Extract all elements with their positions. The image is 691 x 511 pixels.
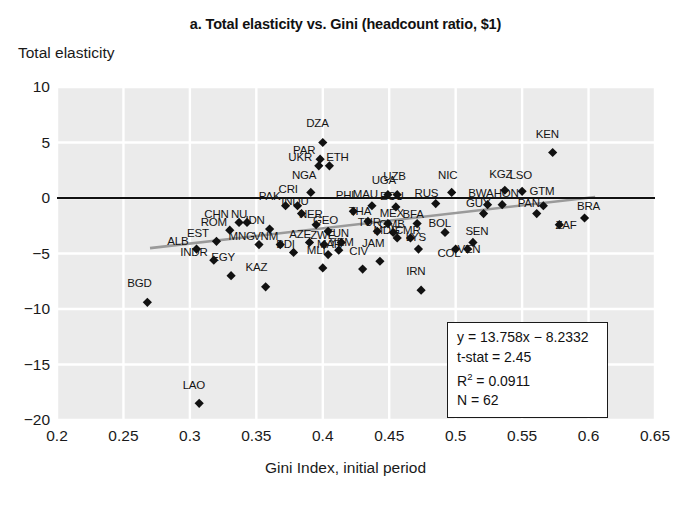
point-label: ZAF xyxy=(555,220,576,232)
point-label: VNM xyxy=(253,231,278,243)
point-label: BDI xyxy=(276,239,295,251)
scatter-marker xyxy=(318,263,327,272)
point-label: LAO xyxy=(183,380,205,392)
point-label: UZB xyxy=(383,171,405,183)
point-label: BFA xyxy=(403,209,424,221)
r-squared-number: = 0.0911 xyxy=(472,373,530,389)
point-label: EGY xyxy=(211,252,235,264)
point-label: INDR xyxy=(180,246,207,258)
y-tick-label: 10 xyxy=(4,78,50,96)
point-label: TUN xyxy=(326,227,349,239)
scatter-marker xyxy=(548,148,557,157)
scatter-marker xyxy=(195,399,204,408)
x-tick-label: 0.65 xyxy=(640,427,670,445)
point-label: BOL xyxy=(429,217,451,229)
x-tick-label: 0.45 xyxy=(374,427,404,445)
x-tick-label: 0.5 xyxy=(445,427,467,445)
scatter-marker xyxy=(417,286,426,295)
scatter-marker xyxy=(518,187,527,196)
point-label: ECU xyxy=(380,191,404,203)
point-label: INDU xyxy=(281,195,308,207)
point-label: GEO xyxy=(313,214,338,226)
point-label: CHN xyxy=(204,209,228,221)
scatter-marker xyxy=(532,209,541,218)
chart-title: a. Total elasticity vs. Gini (headcount … xyxy=(0,16,691,32)
x-tick-label: 0.25 xyxy=(108,427,138,445)
sample-size: N = 62 xyxy=(457,391,599,411)
point-label: MAU xyxy=(353,189,378,201)
x-tick-label: 0.55 xyxy=(507,427,537,445)
scatter-marker xyxy=(226,271,235,280)
r-squared-value: R2 = 0.0911 xyxy=(457,367,599,391)
point-label: PAN xyxy=(518,197,540,209)
x-axis-tick-labels: 0.20.250.30.350.40.450.50.550.60.65 xyxy=(57,427,655,451)
point-label: RUS xyxy=(415,188,439,200)
point-label: VEN xyxy=(457,243,480,255)
point-label: CRI xyxy=(279,183,298,195)
r-squared-label: R xyxy=(457,373,467,389)
scatter-chart: a. Total elasticity vs. Gini (headcount … xyxy=(0,0,691,511)
point-label: EST xyxy=(187,227,209,239)
point-label: GTM xyxy=(530,185,555,197)
regression-stats-box: y = 13.758x − 8.2332 t-stat = 2.45 R2 = … xyxy=(447,322,608,418)
point-label: BWA xyxy=(468,188,493,200)
y-tick-label: 0 xyxy=(4,189,50,207)
point-label: PAK xyxy=(259,191,281,203)
x-tick-label: 0.35 xyxy=(241,427,271,445)
y-tick-label: −10 xyxy=(4,300,50,318)
x-tick-label: 0.2 xyxy=(46,427,68,445)
scatter-marker xyxy=(212,237,221,246)
x-axis-title: Gini Index, initial period xyxy=(0,459,691,477)
x-tick-label: 0.3 xyxy=(179,427,201,445)
point-label: JAM xyxy=(362,237,384,249)
point-label: LYS xyxy=(406,232,426,244)
point-label: IRN xyxy=(406,265,425,277)
point-label: KAZ xyxy=(245,262,267,274)
t-stat-value: t-stat = 2.45 xyxy=(457,348,599,368)
y-tick-label: −20 xyxy=(4,411,50,429)
scatter-marker xyxy=(261,282,270,291)
y-tick-label: −5 xyxy=(4,245,50,263)
point-label: SEN xyxy=(465,225,488,237)
scatter-marker xyxy=(431,199,440,208)
point-label: DZA xyxy=(306,118,328,130)
point-label: UKR xyxy=(288,152,312,164)
x-tick-label: 0.4 xyxy=(312,427,334,445)
x-tick-label: 0.6 xyxy=(578,427,600,445)
point-label: BGD xyxy=(127,277,151,289)
point-label: GUY xyxy=(466,197,490,209)
scatter-marker xyxy=(143,298,152,307)
y-axis-title: Total elasticity xyxy=(18,44,114,62)
y-tick-label: −15 xyxy=(4,356,50,374)
scatter-marker xyxy=(318,138,327,147)
point-label: NGA xyxy=(292,170,316,182)
point-label: BRA xyxy=(577,201,600,213)
y-axis-tick-labels: 1050−5−10−15−20 xyxy=(0,87,50,420)
scatter-marker xyxy=(414,244,423,253)
point-label: MNG xyxy=(229,231,255,243)
point-label: LSO xyxy=(510,170,532,182)
scatter-marker xyxy=(440,228,449,237)
point-label: HON xyxy=(494,188,519,200)
point-label: IDN xyxy=(245,214,264,226)
point-label: KEN xyxy=(536,129,559,141)
scatter-marker xyxy=(375,257,384,266)
point-label: ETH xyxy=(326,152,348,164)
y-tick-label: 5 xyxy=(4,134,50,152)
scatter-marker xyxy=(358,264,367,273)
regression-equation: y = 13.758x − 8.2332 xyxy=(457,328,599,348)
point-label: NIC xyxy=(438,170,457,182)
